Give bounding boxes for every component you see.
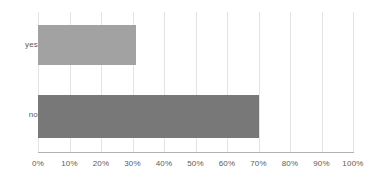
bar-chart: yes no 0%10%20%30%40%50%60%70%80%90%100% xyxy=(0,0,384,185)
gridline-70% xyxy=(259,12,260,152)
x-tick-label-100%: 100% xyxy=(333,159,373,169)
x-axis-line xyxy=(38,152,354,153)
category-label-no: no xyxy=(0,110,38,120)
gridline-100% xyxy=(353,12,354,152)
bar-yes xyxy=(38,25,136,65)
bar-no xyxy=(38,95,259,138)
category-label-yes: yes xyxy=(0,40,38,50)
plot-area xyxy=(38,12,353,152)
gridline-80% xyxy=(290,12,291,152)
gridline-90% xyxy=(322,12,323,152)
